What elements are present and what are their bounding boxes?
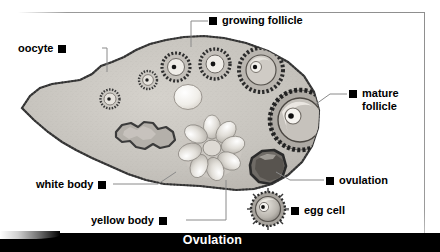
figure-root: oocyte growing follicle mature follicle … xyxy=(0,0,440,252)
marker-square-icon xyxy=(291,207,299,215)
primary-follicle-2 xyxy=(200,49,230,79)
label-mature-follicle-text: mature xyxy=(362,87,399,99)
primary-follicle-1 xyxy=(162,53,190,81)
label-white-body: white body xyxy=(36,178,106,191)
released-egg-cell xyxy=(247,188,289,230)
ovary-cross-section-illustration xyxy=(0,0,440,252)
label-oocyte: oocyte xyxy=(18,42,66,55)
marker-square-icon xyxy=(349,90,357,98)
primordial-follicle-2 xyxy=(139,71,157,89)
label-growing-follicle: growing follicle xyxy=(209,14,303,27)
label-yellow-body-text: yellow body xyxy=(91,214,154,226)
marker-square-icon xyxy=(159,217,167,225)
marker-square-icon xyxy=(58,45,66,53)
label-mature-follicle-text2: follicle xyxy=(362,100,397,112)
marker-square-icon xyxy=(326,177,334,185)
antral-vesicle xyxy=(174,85,202,110)
label-ovulation-text: ovulation xyxy=(339,174,388,186)
label-growing-follicle-text: growing follicle xyxy=(222,14,303,26)
label-egg-cell: egg cell xyxy=(291,204,345,217)
ovulation-site xyxy=(250,150,286,184)
label-yellow-body: yellow body xyxy=(91,214,167,227)
marker-square-icon xyxy=(209,17,217,25)
label-mature-follicle: mature follicle xyxy=(349,87,399,113)
caption-title: Ovulation xyxy=(0,233,425,252)
primordial-follicle-1 xyxy=(101,90,120,109)
label-oocyte-text: oocyte xyxy=(18,42,53,54)
marker-square-icon xyxy=(98,181,106,189)
label-ovulation: ovulation xyxy=(326,174,388,187)
label-egg-cell-text: egg cell xyxy=(304,204,345,216)
mature-follicle xyxy=(270,90,330,150)
label-white-body-text: white body xyxy=(36,178,93,190)
leader-mature-follicle xyxy=(316,94,347,104)
